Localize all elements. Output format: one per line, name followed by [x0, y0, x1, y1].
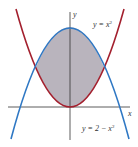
parabola-region-diagram: y x y = x2 y = 2 − x2 — [0, 0, 138, 147]
y-axis-label: y — [72, 10, 77, 19]
label-y-equals-x-squared: y = x2 — [92, 20, 113, 29]
label-y-equals-2-minus-x-squared: y = 2 − x2 — [81, 124, 115, 133]
x-axis-label: x — [127, 109, 132, 118]
